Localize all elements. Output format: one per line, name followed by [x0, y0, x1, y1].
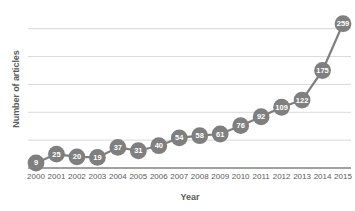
- data-point-marker: [171, 130, 188, 147]
- data-point-marker: [253, 108, 270, 125]
- data-point-marker: [273, 99, 290, 116]
- x-tick-label: 2007: [168, 172, 190, 181]
- x-tick-label: 2001: [45, 172, 67, 181]
- data-point-marker: [28, 155, 45, 172]
- data-point-marker: [130, 142, 147, 159]
- data-point-marker: [89, 149, 106, 166]
- data-point-marker: [314, 62, 331, 79]
- x-axis-title: Year: [30, 192, 350, 202]
- x-tick-label: 2009: [209, 172, 231, 181]
- x-tick-label: 2003: [86, 172, 108, 181]
- line-chart: Number of articles 925201937314054586176…: [0, 0, 355, 211]
- x-tick-label: 2000: [25, 172, 47, 181]
- data-point-marker: [232, 117, 249, 134]
- data-point-marker: [191, 127, 208, 144]
- gridlines: [28, 29, 351, 140]
- x-tick-label: 2011: [250, 172, 272, 181]
- data-line: [36, 24, 343, 163]
- data-point-marker: [69, 148, 86, 165]
- x-tick-label: 2014: [312, 172, 334, 181]
- data-point-marker: [150, 137, 167, 154]
- x-tick-label: 2013: [291, 172, 313, 181]
- data-point-marker: [212, 126, 229, 143]
- x-tick-label: 2010: [230, 172, 252, 181]
- data-point-marker: [48, 146, 65, 163]
- x-tick-label: 2004: [107, 172, 129, 181]
- x-tick-label: 2005: [127, 172, 149, 181]
- x-tick-label: 2012: [271, 172, 293, 181]
- x-tick-label: 2015: [332, 172, 354, 181]
- x-tick-label: 2008: [189, 172, 211, 181]
- x-tick-label: 2002: [66, 172, 88, 181]
- data-markers: [28, 15, 352, 171]
- data-point-marker: [294, 92, 311, 109]
- x-tick-label: 2006: [148, 172, 170, 181]
- data-point-marker: [335, 15, 352, 32]
- data-point-marker: [109, 139, 126, 156]
